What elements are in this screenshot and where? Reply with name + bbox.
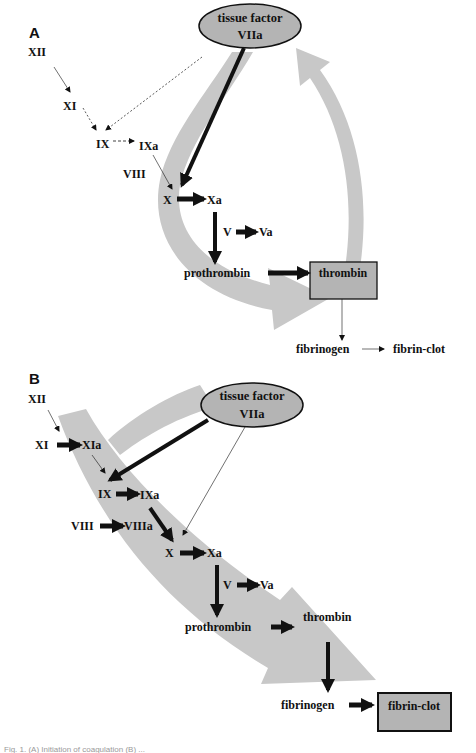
panel-a-label: A [29,24,40,41]
thrombin-node-a: thrombin [310,262,377,299]
node-x-a: X [163,193,172,207]
panel-a: A tissue factor VIIa XII XI IX IXa VIII … [28,4,445,356]
tf-band-b [108,385,214,455]
arrow-xii-xi-b [48,410,59,431]
svg-text:VIIa: VIIa [237,28,263,42]
node-va-a: Va [259,225,273,239]
node-viii-a: VIII [123,167,146,181]
node-prothrombin-b: prothrombin [185,620,252,634]
svg-text:VIIa: VIIa [239,407,265,421]
amplification-band-a [158,52,330,330]
arrow-xii-xi-a [54,67,70,92]
feedback-band-a [296,48,364,268]
tissue-factor-node-a: tissue factor VIIa [199,4,301,48]
panel-b-label: B [29,370,40,387]
node-fibrinogen-b: fibrinogen [281,698,335,712]
node-xi-a: XI [63,99,77,113]
node-xii-b: XII [28,392,46,406]
svg-text:fibrin-clot: fibrin-clot [388,699,440,713]
node-xia-b: XIa [82,438,101,452]
figure-caption: Fig. 1. (A) Initiation of coagulation (B… [4,745,145,753]
svg-text:thrombin: thrombin [319,266,368,280]
node-ixa-a: IXa [139,139,158,153]
svg-text:tissue factor: tissue factor [218,11,283,25]
node-prothrombin-a: prothrombin [184,266,251,280]
node-va-b: Va [260,578,274,592]
node-v-a: V [223,225,232,239]
node-ix-a: IX [96,137,110,151]
arrow-tf-x-thin-b [183,427,245,535]
node-ix-b: IX [98,487,112,501]
node-thrombin-b: thrombin [303,610,352,624]
node-xi-b: XI [35,438,49,452]
svg-text:tissue factor: tissue factor [220,389,285,403]
node-xa-a: Xa [207,193,222,207]
tissue-factor-node-b: tissue factor VIIa [201,383,303,427]
node-fibrin-clot-a: fibrin-clot [393,342,445,356]
panel-b: B tissue factor VIIa XII XI XIa IX IXa V… [28,370,451,731]
node-xa-b: Xa [207,546,222,560]
arrow-xi-ix-a [83,108,96,130]
coagulation-diagram: A tissue factor VIIa XII XI IX IXa VIII … [0,0,476,753]
node-ixa-b: IXa [140,488,159,502]
node-fibrinogen-a: fibrinogen [296,342,350,356]
node-v-b: V [223,578,232,592]
node-viii-b: VIII [71,519,94,533]
node-viiia-b: VIIIa [124,519,153,533]
node-x-b: X [165,546,174,560]
fibrin-clot-node-b: fibrin-clot [378,693,451,731]
node-xii-a: XII [28,45,46,59]
